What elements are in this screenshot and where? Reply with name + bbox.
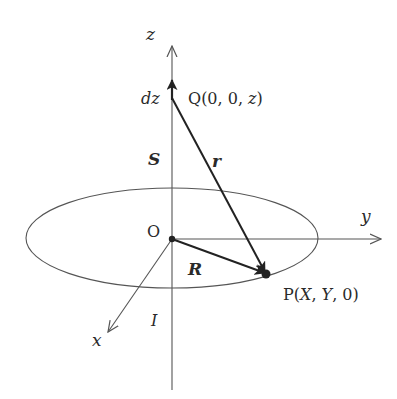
R-label: R	[187, 259, 202, 279]
q-prefix: Q	[188, 89, 201, 108]
y-axis-label: y	[360, 206, 371, 226]
p-prefix: P	[283, 285, 294, 304]
p-x: X	[298, 285, 312, 304]
z-axis-label: z	[145, 24, 156, 44]
origin-point	[169, 236, 175, 242]
r-label: r	[212, 151, 222, 171]
biot-savart-diagram: z y x dz Q(0, 0, z) S r R O I P(X, Y, 0)	[0, 0, 397, 399]
q-coords-open: (0, 0,	[201, 89, 248, 108]
origin-label: O	[147, 222, 160, 241]
x-axis-label: x	[92, 330, 102, 350]
p-sep1: ,	[311, 285, 321, 304]
I-label: I	[150, 311, 158, 330]
dz-label: dz	[141, 89, 160, 108]
p-point-label: P(X, Y, 0)	[283, 285, 359, 304]
p-sep2: , 0)	[332, 285, 359, 304]
q-coords-close: )	[257, 89, 263, 108]
point-p	[262, 270, 271, 279]
S-label: S	[148, 149, 160, 169]
q-point-label: Q(0, 0, z)	[188, 89, 263, 108]
r-vector	[172, 98, 265, 272]
x-axis	[108, 239, 172, 332]
